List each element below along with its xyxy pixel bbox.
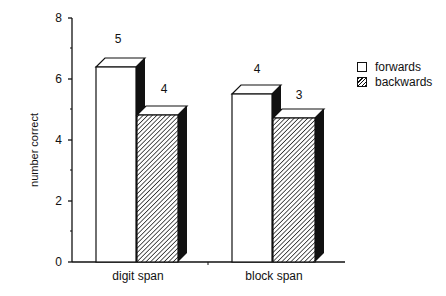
y-tick-2: 2 [55, 194, 62, 208]
category-label-block-span: block span [245, 269, 302, 283]
legend-label: backwards [375, 75, 432, 89]
legend-swatch-forwards-icon [357, 62, 367, 72]
legend-item-backwards: backwards [357, 74, 432, 89]
x-axis: digit span block span [72, 262, 345, 283]
bar-block-span-backwards: 3 [273, 88, 324, 262]
y-tick-4: 4 [55, 133, 62, 147]
bar-value-label: 5 [115, 32, 122, 46]
y-tick-8: 8 [55, 11, 62, 25]
legend: forwards backwards [357, 59, 432, 89]
y-axis-label: number correct [28, 113, 40, 187]
y-tick-0: 0 [55, 255, 62, 269]
y-tick-6: 6 [55, 72, 62, 86]
bar-value-label: 4 [254, 62, 261, 76]
y-axis: 8 6 4 2 0 number correct [28, 11, 72, 269]
bar-digit-span-backwards: 4 [137, 82, 187, 262]
bar-value-label: 4 [161, 82, 168, 96]
legend-item-forwards: forwards [357, 59, 432, 74]
bar-value-label: 3 [296, 88, 303, 102]
category-label-digit-span: digit span [112, 269, 163, 283]
legend-label: forwards [375, 60, 421, 74]
bar-chart: 8 6 4 2 0 number correct digit span bloc… [0, 0, 446, 296]
legend-swatch-backwards-icon [357, 77, 367, 87]
